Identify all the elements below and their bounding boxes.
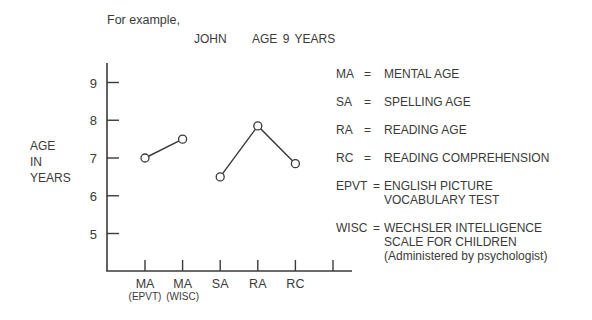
data-point-marker — [179, 135, 187, 143]
legend-abbreviation: RC — [336, 151, 353, 165]
series-line — [145, 139, 183, 158]
legend-definition: READING AGE — [384, 123, 467, 137]
legend-abbreviation: RA — [336, 123, 353, 137]
legend-abbreviation: MA — [336, 67, 354, 81]
legend-equals: = — [364, 95, 371, 109]
legend-equals: = — [364, 67, 371, 81]
legend-definition-line: SCALE FOR CHILDREN — [384, 235, 547, 249]
x-ticks: MA(EPVT)MA(WISC)SARARC — [129, 260, 333, 302]
y-tick-label: 7 — [90, 151, 97, 166]
legend-equals: = — [364, 123, 371, 137]
data-point-marker — [291, 160, 299, 168]
legend-definition: SPELLING AGE — [384, 95, 471, 109]
legend-equals: = — [373, 221, 380, 235]
x-category-sublabel: (EPVT) — [129, 291, 162, 302]
legend-definition-line: ENGLISH PICTURE — [384, 179, 499, 193]
data-series — [141, 122, 299, 181]
legend-definition-line: (Administered by psychologist) — [384, 249, 547, 263]
x-category-label: RA — [249, 277, 267, 291]
x-category-label: MA — [136, 277, 155, 291]
x-category-label: RC — [286, 277, 304, 291]
y-tick-label: 6 — [90, 189, 97, 204]
legend-definition-line: VOCABULARY TEST — [384, 193, 499, 207]
legend-definition: WECHSLER INTELLIGENCESCALE FOR CHILDREN(… — [384, 221, 547, 263]
legend-definition-line: READING AGE — [384, 123, 467, 137]
axes — [106, 63, 352, 271]
x-category-sublabel: (WISC) — [166, 291, 199, 302]
legend-definition-line: SPELLING AGE — [384, 95, 471, 109]
legend-definition-line: WECHSLER INTELLIGENCE — [384, 221, 547, 235]
legend-definition: MENTAL AGE — [384, 67, 459, 81]
legend-definition-line: MENTAL AGE — [384, 67, 459, 81]
y-tick-label: 9 — [90, 76, 97, 91]
data-point-marker — [141, 154, 149, 162]
y-ticks: 56789 — [90, 76, 119, 242]
legend-abbreviation: SA — [336, 95, 352, 109]
legend-abbreviation: WISC — [336, 221, 367, 235]
data-point-marker — [254, 122, 262, 130]
legend-definition: ENGLISH PICTUREVOCABULARY TEST — [384, 179, 499, 207]
x-category-label: MA — [173, 277, 192, 291]
y-tick-label: 5 — [90, 227, 97, 242]
legend-equals: = — [373, 179, 380, 193]
x-category-label: SA — [212, 277, 229, 291]
series-line — [220, 126, 295, 177]
legend-equals: = — [364, 151, 371, 165]
legend-abbreviation: EPVT — [336, 179, 367, 193]
legend-definition-line: READING COMPREHENSION — [384, 151, 549, 165]
data-point-marker — [216, 173, 224, 181]
legend-definition: READING COMPREHENSION — [384, 151, 549, 165]
y-tick-label: 8 — [90, 113, 97, 128]
